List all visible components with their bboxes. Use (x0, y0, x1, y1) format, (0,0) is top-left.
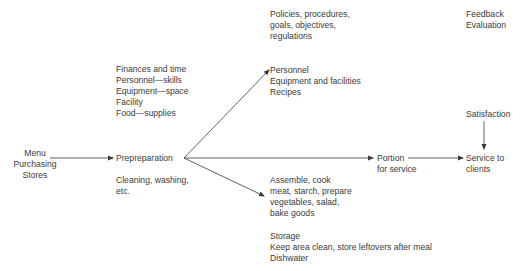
portion-node: Portion for service (377, 153, 417, 175)
resources-node: Finances and time Personnel—skills Equip… (116, 64, 189, 119)
policies-node: Policies, procedures, goals, objectives,… (270, 9, 350, 42)
satisfaction-node: Satisfaction (466, 109, 510, 120)
arrow-prepreparation-to-personnel (184, 70, 269, 158)
diagram-connectors (0, 0, 522, 271)
feedback-node: Feedback Evaluation (466, 9, 506, 31)
service-node: Service to clients (466, 153, 504, 175)
personnel-node: Personnel Equipment and facilities Recip… (270, 65, 361, 98)
arrow-prepreparation-to-assemble (184, 158, 264, 196)
prepreparation-note: Cleaning, washing, etc. (116, 175, 189, 197)
inputs-node: Menu Purchasing Stores (10, 148, 60, 181)
storage-node: Storage Keep area clean, store leftovers… (270, 231, 432, 264)
prepreparation-node: Prepreparation (116, 153, 173, 164)
assemble-node: Assemble, cook meat, starch, prepare veg… (270, 175, 352, 219)
